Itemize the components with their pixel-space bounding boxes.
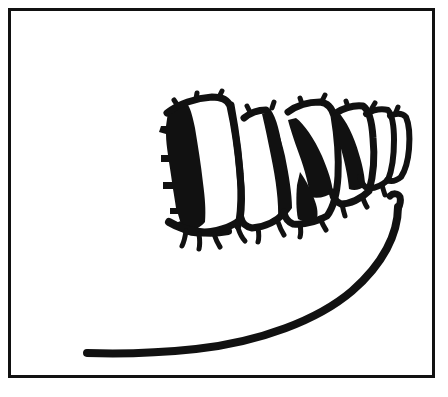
insect-body-group	[159, 91, 409, 249]
segment-divider-1	[231, 105, 241, 226]
caption-cropped-text-strip	[0, 384, 448, 397]
body-left-dark-mass	[159, 105, 205, 233]
illustration-drawing	[0, 0, 448, 397]
segment-3-shading-mass	[288, 118, 333, 198]
figure-root	[0, 0, 448, 397]
curved-appendage-main-sweep	[87, 207, 398, 353]
